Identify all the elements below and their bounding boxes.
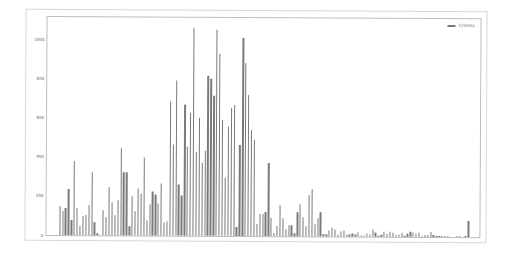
bar	[221, 120, 223, 236]
legend-swatch	[448, 25, 456, 27]
bar	[97, 233, 98, 235]
bar	[192, 28, 194, 236]
bar	[387, 234, 388, 237]
bar	[343, 231, 344, 237]
y-tick-label: 800	[28, 76, 44, 81]
bar	[114, 216, 115, 236]
bar	[459, 236, 460, 237]
bar	[227, 127, 229, 236]
bar	[79, 226, 80, 235]
bar	[436, 236, 437, 237]
bar	[126, 173, 128, 236]
y-tick-label: 0	[27, 232, 43, 237]
bar	[346, 235, 347, 237]
bar	[369, 235, 370, 237]
bar	[407, 234, 408, 237]
bar	[279, 205, 280, 236]
bar	[152, 191, 154, 235]
bar	[123, 173, 125, 236]
bar	[239, 145, 241, 236]
bar	[195, 151, 197, 235]
bar	[108, 187, 110, 235]
bar	[285, 229, 286, 236]
bar	[308, 195, 310, 236]
bar	[430, 232, 431, 237]
bar	[331, 228, 332, 237]
bar	[117, 200, 118, 235]
bar	[404, 236, 405, 237]
bar	[253, 140, 255, 236]
bar	[247, 95, 249, 236]
bar	[111, 202, 112, 235]
bar	[242, 38, 244, 236]
bar	[360, 236, 361, 237]
bar	[395, 235, 396, 237]
bar	[366, 234, 367, 237]
bar	[189, 112, 191, 235]
bar	[268, 164, 270, 237]
legend: Crimes	[448, 23, 475, 28]
bar	[320, 213, 321, 237]
bar	[302, 218, 303, 237]
bar	[401, 233, 402, 237]
bar	[169, 101, 171, 235]
plot-area: Crimes 02004006008001000	[45, 16, 481, 238]
bar	[468, 221, 469, 237]
bar	[415, 234, 416, 237]
bar	[137, 188, 139, 235]
bar	[300, 204, 301, 236]
bar	[155, 194, 157, 235]
bar	[465, 236, 466, 237]
bar	[433, 235, 434, 237]
bar	[213, 96, 215, 236]
bar	[161, 184, 163, 236]
bar	[421, 236, 422, 237]
bar	[71, 220, 72, 235]
bar	[389, 232, 390, 237]
bar	[233, 105, 235, 236]
bar	[323, 234, 324, 236]
bar	[375, 233, 376, 237]
y-tick-label: 200	[28, 193, 44, 198]
bar	[410, 232, 411, 237]
bar	[94, 222, 95, 235]
bar	[352, 234, 353, 237]
bar	[187, 146, 189, 235]
legend-label: Crimes	[459, 23, 475, 28]
bar	[207, 76, 209, 236]
bar	[256, 224, 257, 236]
bar	[439, 236, 440, 237]
bar	[149, 204, 150, 235]
bar	[140, 193, 142, 235]
bar	[201, 163, 203, 236]
bar	[288, 225, 289, 236]
bar	[62, 211, 63, 235]
bar	[129, 227, 130, 236]
bar	[317, 219, 318, 237]
bar	[134, 211, 135, 236]
bar	[340, 232, 341, 237]
y-tick-label: 1000	[28, 36, 44, 41]
bar	[68, 189, 70, 235]
bar	[91, 172, 93, 235]
bar	[291, 225, 292, 236]
bar	[204, 150, 206, 235]
bar	[74, 161, 76, 235]
bar	[349, 235, 350, 237]
bar	[178, 185, 180, 236]
bar	[424, 235, 425, 237]
bar	[65, 208, 66, 235]
bar	[120, 148, 122, 235]
bar	[314, 225, 315, 237]
bar	[372, 230, 373, 237]
bar	[172, 144, 174, 235]
bar	[447, 236, 448, 237]
bar	[276, 226, 277, 236]
bar	[262, 214, 263, 236]
bar	[282, 219, 283, 237]
bar	[105, 218, 106, 236]
bar	[297, 213, 298, 237]
bar	[210, 79, 212, 236]
bar	[82, 216, 83, 235]
bar	[146, 221, 147, 236]
